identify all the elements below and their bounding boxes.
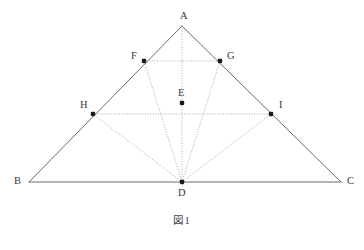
vertex-label-G: G — [227, 51, 235, 62]
vertex-label-A: A — [180, 11, 188, 22]
vertex-label-F: F — [131, 51, 137, 62]
point-marker-group — [91, 59, 273, 184]
solid-segment-group — [29, 26, 341, 182]
point-marker-H — [91, 112, 95, 116]
vertex-label-E: E — [178, 88, 185, 99]
segment-DG — [182, 61, 220, 182]
figure-caption: 図1 — [0, 216, 364, 227]
point-marker-D — [180, 180, 184, 184]
segment-DF — [144, 61, 182, 182]
point-marker-E — [180, 101, 184, 105]
segment-DH — [93, 114, 182, 182]
point-marker-G — [218, 59, 222, 63]
figure-container: ABCDEFGHI 図1 — [0, 0, 364, 250]
segment-DI — [182, 114, 271, 182]
segment-AC — [182, 26, 341, 182]
point-marker-F — [142, 59, 146, 63]
vertex-label-D: D — [178, 188, 186, 199]
segment-AB — [29, 26, 182, 182]
vertex-label-C: C — [347, 176, 354, 187]
geometry-diagram — [0, 0, 364, 250]
vertex-label-B: B — [14, 176, 21, 187]
vertex-label-I: I — [279, 100, 283, 111]
vertex-label-H: H — [80, 100, 88, 111]
point-marker-I — [269, 112, 273, 116]
